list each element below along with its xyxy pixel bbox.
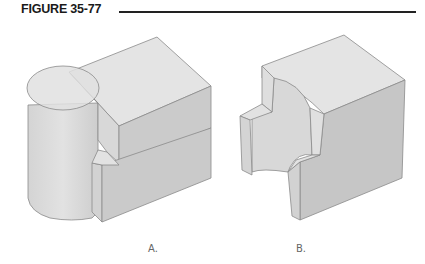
- b-left-tab-face: [240, 116, 252, 175]
- part-b-model: [240, 35, 405, 220]
- part-a-model: [27, 37, 211, 222]
- slab-left-face: [92, 163, 102, 222]
- panel-label-a: A.: [148, 243, 158, 254]
- drawing-canvas: [0, 0, 425, 264]
- b-slab-left-face: [288, 162, 300, 220]
- panel-label-b: B.: [296, 243, 306, 254]
- cylinder-top: [27, 66, 99, 110]
- cylinder-body: [28, 103, 98, 220]
